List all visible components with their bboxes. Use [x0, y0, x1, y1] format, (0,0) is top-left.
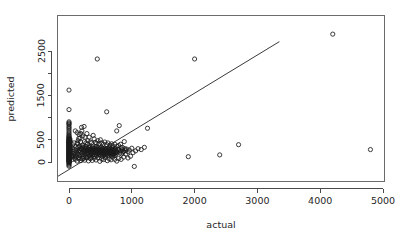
data-point: [193, 57, 197, 61]
data-point: [95, 57, 99, 61]
regression-line: [53, 42, 279, 179]
data-point: [115, 129, 119, 133]
x-tick-label: 0: [66, 195, 72, 206]
y-tick-label: 2500: [36, 39, 47, 63]
plot-canvas: 050015002500 010002000300040005000 actua…: [0, 0, 401, 243]
data-point: [218, 153, 222, 157]
y-tick-label: 0: [36, 159, 47, 165]
data-point: [67, 88, 71, 92]
y-tick-label: 1500: [36, 83, 47, 107]
x-tick-label: 2000: [183, 195, 207, 206]
y-axis: 050015002500: [36, 39, 52, 165]
data-point: [82, 124, 86, 128]
data-point: [105, 110, 109, 114]
data-point: [145, 126, 149, 130]
data-point: [142, 145, 146, 149]
data-point: [132, 164, 136, 168]
data-points-layer: [67, 32, 373, 169]
data-point: [67, 108, 71, 112]
data-point: [368, 147, 372, 151]
y-axis-title: predicted: [5, 76, 16, 121]
x-tick-label: 1000: [120, 195, 144, 206]
data-point: [331, 32, 335, 36]
data-point: [122, 139, 126, 143]
x-axis: 010002000300040005000: [66, 189, 395, 207]
y-tick-label: 500: [36, 131, 47, 149]
data-point: [117, 123, 121, 127]
x-tick-label: 5000: [371, 195, 395, 206]
x-axis-title: actual: [206, 219, 235, 230]
x-tick-label: 3000: [245, 195, 269, 206]
x-tick-label: 4000: [308, 195, 332, 206]
data-point: [236, 143, 240, 147]
scatter-plot-figure: 050015002500 010002000300040005000 actua…: [0, 0, 401, 243]
data-point: [186, 155, 190, 159]
